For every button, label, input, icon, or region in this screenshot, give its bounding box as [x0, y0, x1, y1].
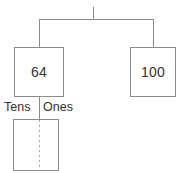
connector-stem-right: [153, 19, 154, 48]
connector-stem-left: [39, 19, 40, 48]
number-box-64: 64: [14, 47, 64, 97]
column-label-ones: Ones: [43, 101, 73, 114]
place-value-column-divider: [39, 120, 40, 170]
connector-horizontal-bar: [39, 19, 154, 20]
number-box-100-value: 100: [141, 65, 165, 79]
column-label-tens: Tens: [4, 101, 30, 114]
connector-stem-to-place-value: [39, 97, 40, 120]
number-box-100: 100: [130, 47, 176, 97]
place-value-answer-box[interactable]: [13, 119, 59, 171]
place-value-diagram: 64 100 Tens Ones: [0, 0, 186, 173]
number-box-64-value: 64: [31, 65, 47, 79]
